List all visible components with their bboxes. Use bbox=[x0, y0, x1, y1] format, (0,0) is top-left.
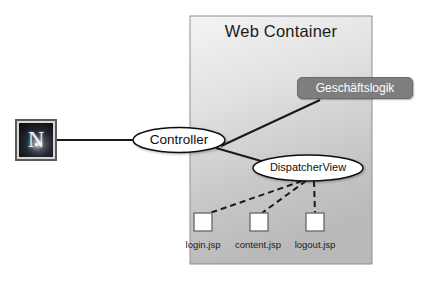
jsp-page-box-login[interactable] bbox=[194, 213, 212, 231]
diagram-canvas: Web Container Geschäftslogik Controller … bbox=[0, 0, 424, 283]
node-controller-label: Controller bbox=[133, 132, 225, 147]
netscape-n-glyph: N bbox=[19, 128, 53, 151]
netscape-browser-icon-face: N bbox=[19, 123, 53, 157]
node-dispatcher-view-label: DispatcherView bbox=[253, 161, 363, 173]
jsp-page-box-logout[interactable] bbox=[306, 213, 324, 231]
node-business-logik[interactable]: Geschäftslogik bbox=[297, 77, 413, 99]
web-container-title: Web Container bbox=[190, 22, 372, 41]
jsp-page-box-content[interactable] bbox=[250, 213, 268, 231]
netscape-browser-icon[interactable]: N bbox=[15, 119, 57, 161]
netscape-sparkle-icon bbox=[35, 143, 38, 146]
jsp-page-label-logout: logout.jsp bbox=[288, 239, 342, 250]
node-business-logik-label: Geschäftslogik bbox=[316, 81, 395, 95]
jsp-page-label-login: login.jsp bbox=[178, 239, 228, 250]
jsp-page-label-content: content.jsp bbox=[230, 239, 286, 250]
